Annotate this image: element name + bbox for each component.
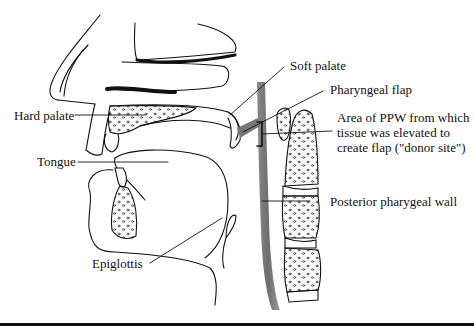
bottom-rule	[0, 323, 474, 326]
nose	[50, 15, 100, 104]
label-donor-site: Area of PPW from which tissue was elevat…	[337, 110, 474, 155]
hard-palate	[86, 104, 238, 155]
pharyngeal-flap-shape	[237, 118, 260, 138]
mandible	[89, 168, 217, 305]
vertebrae	[277, 108, 321, 302]
epiglottis-shape	[223, 215, 236, 268]
label-epiglottis: Epiglottis	[92, 256, 143, 271]
turbinates	[107, 23, 236, 92]
diagram-canvas: Soft palate Pharyngeal flap Area of PPW …	[0, 0, 474, 331]
label-tongue: Tongue	[37, 154, 76, 169]
label-posterior-wall: Posterior pharygeal wall	[330, 194, 457, 209]
label-hard-palate: Hard palate	[14, 108, 74, 123]
label-soft-palate: Soft palate	[290, 58, 346, 73]
label-pharyngeal-flap: Pharyngeal flap	[330, 82, 412, 97]
